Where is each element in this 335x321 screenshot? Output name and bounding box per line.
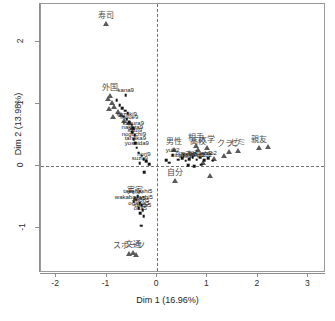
data-point-label: endo2	[200, 150, 217, 156]
data-point-categories	[265, 144, 271, 149]
data-point-individuals	[148, 163, 151, 166]
data-point-individuals	[196, 158, 199, 161]
x-tick-label: 1	[204, 278, 209, 288]
reference-line-horizontal	[41, 166, 324, 167]
y-tick	[35, 41, 39, 42]
data-point-label: 男性	[166, 138, 182, 146]
data-point-categories	[103, 21, 109, 26]
data-point-label: 大学	[199, 136, 215, 144]
x-tick-label: -2	[51, 278, 59, 288]
y-axis-title: Dim 2 (13.98%)	[13, 54, 23, 194]
data-point-label: kana9	[118, 87, 134, 93]
plot-area: 寿司外国男性相手高校大学クラブゼミ親友自分実家スポーツ文通kana9suzuki…	[41, 4, 324, 271]
data-point-individuals	[139, 162, 142, 165]
data-point-categories	[110, 114, 116, 119]
reference-line-vertical	[157, 4, 158, 271]
x-tick	[55, 273, 56, 277]
data-point-categories	[106, 106, 112, 111]
data-point-individuals	[136, 147, 139, 150]
data-point-individuals	[124, 94, 127, 97]
data-point-label: oka5	[134, 205, 147, 211]
data-point-individuals	[143, 171, 146, 174]
data-point-individuals	[207, 157, 210, 160]
data-point-categories	[133, 252, 139, 257]
data-point-individuals	[143, 215, 146, 218]
data-point-label: 親友	[251, 136, 267, 144]
y-axis-line	[39, 3, 40, 272]
data-point-label: 自分	[167, 169, 183, 177]
data-point-label: ゼミ	[230, 139, 246, 147]
y-tick-label: -1	[17, 224, 27, 232]
x-tick-label: -1	[102, 278, 110, 288]
y-tick	[35, 165, 39, 166]
data-point-individuals	[188, 158, 191, 161]
data-point-label: yoshida9	[125, 140, 149, 146]
data-point-individuals	[139, 212, 142, 215]
data-point-individuals	[211, 160, 214, 163]
scatter-plot-figure: 寿司外国男性相手高校大学クラブゼミ親友自分実家スポーツ文通kana9suzuki…	[0, 0, 335, 321]
y-tick	[35, 227, 39, 228]
x-tick-label: 0	[154, 278, 159, 288]
plot-frame: 寿司外国男性相手高校大学クラブゼミ親友自分実家スポーツ文通kana9suzuki…	[40, 3, 325, 272]
data-point-individuals	[193, 165, 196, 168]
data-point-individuals	[168, 161, 171, 164]
data-point-individuals	[184, 160, 187, 163]
x-tick	[106, 273, 107, 277]
data-point-individuals	[200, 163, 203, 166]
x-tick	[307, 273, 308, 277]
x-axis-line	[40, 273, 325, 274]
x-tick	[156, 273, 157, 277]
data-point-individuals	[203, 159, 206, 162]
x-tick	[257, 273, 258, 277]
y-tick	[35, 103, 39, 104]
data-point-label: 寿司	[98, 12, 114, 20]
data-point-categories	[221, 153, 227, 158]
data-point-categories	[256, 145, 262, 150]
data-point-categories	[207, 173, 213, 178]
data-point-individuals	[187, 164, 190, 167]
data-point-categories	[235, 148, 241, 153]
data-point-label: 文通	[125, 241, 141, 249]
y-tick-label: 2	[15, 39, 25, 44]
data-point-categories	[172, 178, 178, 183]
data-point-individuals	[115, 99, 118, 102]
x-axis-title: Dim 1 (16.96%)	[0, 295, 335, 305]
x-tick-label: 3	[305, 278, 310, 288]
x-tick	[206, 273, 207, 277]
data-point-label: 外国	[102, 84, 118, 92]
data-point-individuals	[140, 225, 143, 228]
x-tick-label: 2	[255, 278, 260, 288]
